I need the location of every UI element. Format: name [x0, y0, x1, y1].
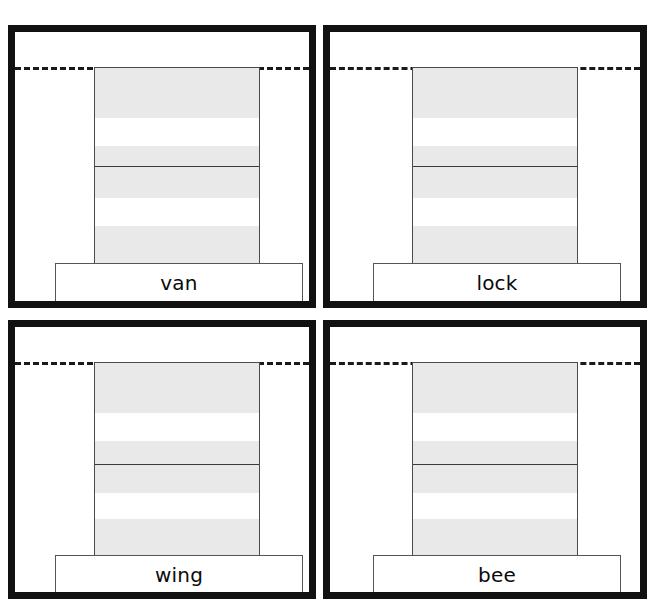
band-white-2 — [95, 493, 259, 519]
panel-wing: wing — [8, 320, 316, 599]
panel-lock: lock — [323, 25, 647, 308]
band-white-2 — [413, 493, 577, 519]
band-gray-4 — [95, 519, 259, 558]
band-gray-3 — [95, 465, 259, 493]
panel-label-text: van — [160, 273, 197, 293]
panel-label-text: lock — [476, 273, 517, 293]
bar-segment-upper — [95, 363, 259, 464]
band-gray-1 — [95, 68, 259, 118]
band-gray-4 — [413, 519, 577, 558]
bar-segment-upper — [413, 363, 577, 464]
stacked-bar — [412, 67, 578, 266]
band-gray-1 — [95, 363, 259, 413]
band-gray-4 — [413, 226, 577, 266]
band-gray-2 — [95, 441, 259, 464]
band-white-1 — [413, 118, 577, 146]
bar-segment-lower — [95, 166, 259, 266]
panel-label-box: bee — [373, 555, 621, 592]
panel-label-text: wing — [155, 565, 203, 585]
band-gray-2 — [413, 441, 577, 464]
panel-label-box: lock — [373, 263, 621, 301]
band-white-1 — [413, 413, 577, 441]
panel-bee: bee — [323, 320, 647, 599]
band-gray-2 — [95, 146, 259, 166]
figure-canvas: van lock — [0, 0, 655, 611]
stacked-bar — [94, 67, 260, 266]
band-white-1 — [95, 413, 259, 441]
panel-bee-plot-area: bee — [330, 327, 640, 592]
panel-van: van — [8, 25, 316, 308]
band-white-2 — [413, 198, 577, 226]
panel-wing-plot-area: wing — [15, 327, 309, 592]
panel-label-box: van — [55, 263, 303, 301]
bar-segment-lower — [95, 464, 259, 558]
panel-lock-plot-area: lock — [330, 32, 640, 301]
panel-label-text: bee — [478, 565, 516, 585]
band-white-2 — [95, 198, 259, 226]
band-white-1 — [95, 118, 259, 146]
band-gray-3 — [95, 167, 259, 198]
band-gray-3 — [413, 465, 577, 493]
band-gray-3 — [413, 167, 577, 198]
bar-segment-lower — [413, 166, 577, 266]
panel-van-plot-area: van — [15, 32, 309, 301]
band-gray-1 — [413, 363, 577, 413]
stacked-bar — [94, 362, 260, 558]
stacked-bar — [412, 362, 578, 558]
band-gray-4 — [95, 226, 259, 266]
bar-segment-upper — [95, 68, 259, 166]
band-gray-2 — [413, 146, 577, 166]
bar-segment-lower — [413, 464, 577, 558]
bar-segment-upper — [413, 68, 577, 166]
band-gray-1 — [413, 68, 577, 118]
panel-label-box: wing — [55, 555, 303, 592]
